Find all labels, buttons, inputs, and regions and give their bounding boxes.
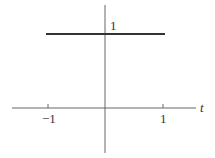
x-tick-label-neg1: −1 (42, 111, 56, 126)
y-value-label: 1 (110, 18, 117, 33)
x-axis-label: t (200, 100, 204, 115)
x-tick-label-1: 1 (160, 111, 167, 126)
chart: t −1 1 1 (0, 0, 215, 158)
